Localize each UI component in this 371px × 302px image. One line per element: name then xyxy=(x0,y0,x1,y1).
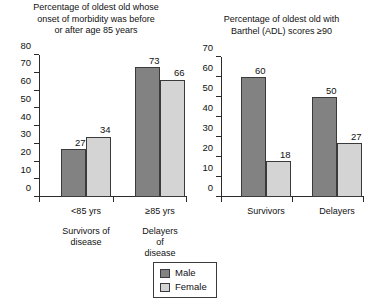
y-tick xyxy=(34,54,39,55)
chart-title-line: Percentage of oldest old with xyxy=(192,14,371,26)
y-tick xyxy=(216,136,221,137)
y-tick xyxy=(216,116,221,117)
y-tick xyxy=(34,125,39,126)
bar-male-ge85 xyxy=(135,67,160,197)
legend-label-male: Male xyxy=(175,268,196,278)
plot-area-right: 0 10 20 30 40 50 60 70 60 18 50 27 xyxy=(221,57,364,197)
chart-panel-right: Percentage of oldest old with Barthel (A… xyxy=(192,0,371,302)
bar-male-survivors xyxy=(241,77,266,197)
chart-legend: Male Female xyxy=(153,262,217,298)
y-tick-label: 0 xyxy=(26,183,31,193)
legend-swatch-male-icon xyxy=(160,269,170,278)
y-tick xyxy=(216,176,221,177)
chart-title-line: or after age 85 years xyxy=(0,25,192,37)
bar-value-male-ge85: 73 xyxy=(149,56,160,66)
y-tick xyxy=(216,56,221,57)
x-tick xyxy=(186,197,187,202)
x-tick xyxy=(363,197,364,202)
y-tick-label: 70 xyxy=(202,43,213,53)
bar-value-female-lt85: 34 xyxy=(100,125,111,135)
group-label-line: Survivors of xyxy=(62,226,110,237)
chart-title-right: Percentage of oldest old with Barthel (A… xyxy=(192,14,371,37)
y-tick xyxy=(34,161,39,162)
chart-panel-left: Percentage of oldest old whose onset of … xyxy=(0,0,192,302)
y-tick xyxy=(34,90,39,91)
group-label-line: disease xyxy=(62,237,110,248)
chart-title-line: Percentage of oldest old whose xyxy=(0,2,192,14)
y-axis-right xyxy=(221,57,222,197)
legend-label-female: Female xyxy=(175,282,207,292)
chart-title-line: Barthel (ADL) scores ≥90 xyxy=(192,26,371,38)
bar-value-female-ge85: 66 xyxy=(174,68,185,78)
y-tick xyxy=(216,156,221,157)
group-label-survivors: Survivors of disease xyxy=(62,226,110,248)
y-tick-label: 10 xyxy=(202,163,213,173)
y-tick xyxy=(34,107,39,108)
bar-male-delayers xyxy=(312,97,337,197)
bar-female-ge85 xyxy=(160,80,185,197)
y-tick xyxy=(216,96,221,97)
y-tick-label: 70 xyxy=(20,59,31,69)
legend-swatch-female-icon xyxy=(160,283,170,292)
y-tick-label: 50 xyxy=(20,94,31,104)
y-tick-label: 30 xyxy=(202,123,213,133)
y-tick-label: 20 xyxy=(202,143,213,153)
bar-value-male-survivors: 60 xyxy=(255,66,266,76)
x-tick xyxy=(39,197,40,202)
x-category-label-lt85: <85 yrs xyxy=(71,206,101,217)
chart-title-line: onset of morbidity was before xyxy=(0,14,192,26)
bar-value-male-delayers: 50 xyxy=(326,86,337,96)
x-tick xyxy=(292,197,293,202)
y-tick xyxy=(34,143,39,144)
plot-area-left: 0 10 20 30 40 50 60 70 80 27 34 73 66 xyxy=(39,55,187,197)
y-tick-label: 60 xyxy=(20,76,31,86)
group-label-delayers: Delayers of disease xyxy=(142,226,178,259)
x-tick xyxy=(113,197,114,202)
bar-value-male-lt85: 27 xyxy=(75,138,86,148)
y-tick xyxy=(216,76,221,77)
y-tick-label: 0 xyxy=(208,183,213,193)
legend-item-female: Female xyxy=(160,281,207,293)
bar-male-lt85 xyxy=(61,149,86,197)
y-tick-label: 20 xyxy=(20,147,31,157)
x-category-label-delayers: Delayers xyxy=(319,206,355,217)
group-label-line: Delayers of xyxy=(142,226,178,248)
bar-value-female-survivors: 18 xyxy=(280,150,291,160)
bar-female-delayers xyxy=(337,143,362,197)
y-tick xyxy=(34,178,39,179)
group-label-line: disease xyxy=(142,248,178,259)
y-tick-label: 60 xyxy=(202,63,213,73)
x-tick xyxy=(221,197,222,202)
y-tick-label: 40 xyxy=(20,112,31,122)
x-category-label-survivors: Survivors xyxy=(247,206,285,217)
y-tick-label: 30 xyxy=(20,130,31,140)
y-tick xyxy=(34,72,39,73)
y-tick-label: 40 xyxy=(202,103,213,113)
y-axis-left xyxy=(39,55,40,197)
bar-value-female-delayers: 27 xyxy=(351,132,362,142)
bar-female-lt85 xyxy=(86,137,111,197)
bar-female-survivors xyxy=(266,161,291,197)
y-tick-label: 80 xyxy=(20,41,31,51)
x-category-label-ge85: ≥85 yrs xyxy=(145,206,174,217)
y-tick-label: 50 xyxy=(202,83,213,93)
y-tick-label: 10 xyxy=(20,165,31,175)
chart-title-left: Percentage of oldest old whose onset of … xyxy=(0,2,192,37)
legend-item-male: Male xyxy=(160,267,207,279)
